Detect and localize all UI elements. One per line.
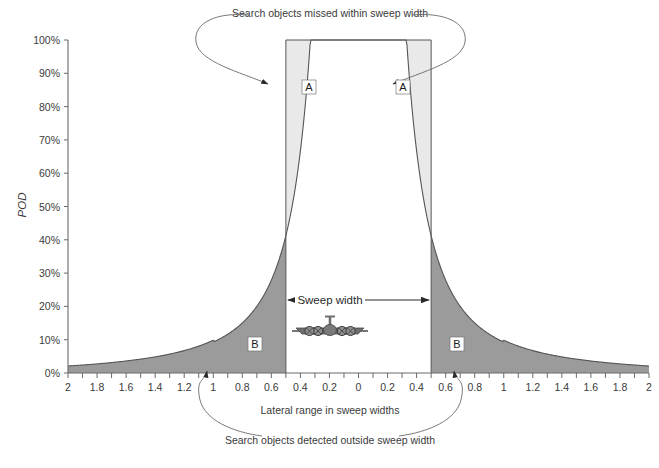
top-annotation-label: Search objects missed within sweep width xyxy=(232,7,428,19)
x-tick-label: 1.6 xyxy=(119,381,134,393)
x-tick-label: 0 xyxy=(356,381,362,393)
svg-text:A: A xyxy=(399,81,407,93)
y-axis-title: POD xyxy=(16,193,28,218)
y-tick-label: 30% xyxy=(39,267,60,279)
aircraft-icon xyxy=(292,316,368,336)
bottom-annotation-leader-left xyxy=(199,371,262,436)
x-tick-label: 0.6 xyxy=(438,381,453,393)
y-tick-label: 70% xyxy=(39,134,60,146)
svg-text:B: B xyxy=(453,338,460,350)
axes-group: 0%10%20%30%40%50%60%70%80%90%100% 21.81.… xyxy=(33,34,652,393)
y-tick-label: 10% xyxy=(39,334,60,346)
x-tick-label: 1.4 xyxy=(148,381,163,393)
region-label-b-left: B xyxy=(248,337,262,351)
x-tick-label: 1 xyxy=(501,381,507,393)
y-tick-label: 40% xyxy=(39,234,60,246)
y-tick-label: 100% xyxy=(33,34,60,46)
x-tick-label: 2 xyxy=(65,381,71,393)
x-tick-label: 2 xyxy=(646,381,652,393)
x-tick-label: 0.8 xyxy=(467,381,482,393)
figure-container: 0%10%20%30%40%50%60%70%80%90%100% 21.81.… xyxy=(0,0,659,468)
x-tick-label: 1.2 xyxy=(525,381,540,393)
x-tick-label: 0.2 xyxy=(380,381,395,393)
x-tick-label: 1.2 xyxy=(177,381,192,393)
region-label-b-right: B xyxy=(450,337,464,351)
y-tick-label: 50% xyxy=(39,201,60,213)
bottom-annotation-label: Search objects detected outside sweep wi… xyxy=(225,434,435,446)
region-label-a-left: A xyxy=(302,80,316,94)
x-tick-label: 1 xyxy=(210,381,216,393)
top-annotation-leader-left xyxy=(196,14,268,84)
pod-curve xyxy=(68,40,649,366)
x-tick-label: 1.8 xyxy=(613,381,628,393)
y-tick-label: 90% xyxy=(39,67,60,79)
y-tick-label: 80% xyxy=(39,101,60,113)
lateral-range-curve-chart: 0%10%20%30%40%50%60%70%80%90%100% 21.81.… xyxy=(0,0,659,468)
y-tick-label: 20% xyxy=(39,300,60,312)
region-a-shading xyxy=(286,40,431,236)
x-tick-label: 0.8 xyxy=(235,381,250,393)
x-tick-label: 0.4 xyxy=(409,381,424,393)
svg-text:B: B xyxy=(251,338,258,350)
x-tick-label: 1.6 xyxy=(584,381,599,393)
x-tick-label: 0.2 xyxy=(322,381,337,393)
y-tick-label: 0% xyxy=(45,367,60,379)
x-tick-label: 0.4 xyxy=(293,381,308,393)
x-tick-label: 1.8 xyxy=(90,381,105,393)
svg-text:A: A xyxy=(305,81,313,93)
sweep-width-label: Sweep width xyxy=(297,294,362,306)
y-tick-label: 60% xyxy=(39,167,60,179)
sweep-width-measure: Sweep width xyxy=(288,292,429,308)
x-axis-title: Lateral range in sweep widths xyxy=(261,404,400,416)
x-tick-label: 0.6 xyxy=(264,381,279,393)
x-tick-label: 1.4 xyxy=(555,381,570,393)
region-label-a-right: A xyxy=(396,80,410,94)
